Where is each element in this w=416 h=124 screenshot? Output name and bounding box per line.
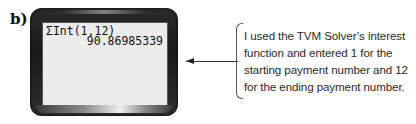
annotation-text: I used the TVM Solver’s interest functio… (244, 27, 416, 95)
arrow-left-icon (186, 58, 194, 64)
calculator-result-line: 90.86985339 (87, 36, 163, 47)
bracket-icon (236, 23, 243, 99)
part-label: b) (10, 10, 28, 28)
calculator-screen: ΣInt(1,12) 90.86985339 (42, 22, 168, 106)
calculator-screen-frame: ΣInt(1,12) 90.86985339 (30, 8, 178, 116)
